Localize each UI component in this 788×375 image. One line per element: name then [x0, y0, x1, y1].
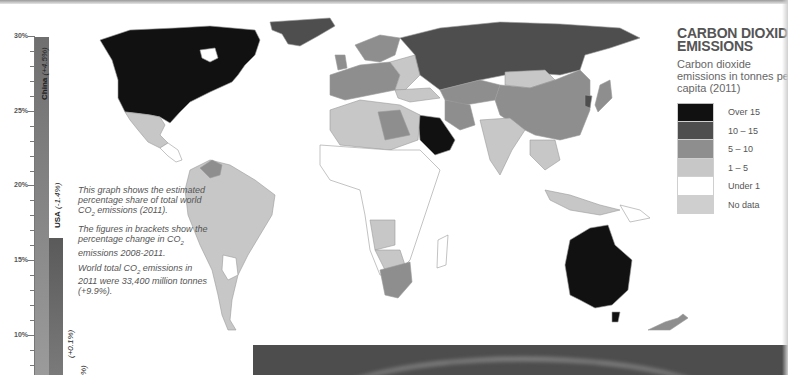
legend-item-under-1: Under 1 [677, 177, 788, 196]
legend-item-no-data: No data [677, 196, 788, 215]
legend-subtitle: Carbon dioxide emissions in tonnes pe ca… [677, 58, 788, 94]
tick [30, 350, 34, 351]
tick-25 [28, 111, 34, 112]
bar-label-usa: USA (-1.4%) [53, 183, 62, 228]
swatch-10-15 [677, 122, 714, 141]
china-label: China [40, 78, 49, 100]
legend-item-1-5: 1 – 5 [677, 159, 788, 178]
bar-label-third: (+0.1%) [66, 330, 75, 358]
scandinavia [355, 35, 400, 62]
new-zealand [648, 314, 688, 330]
swatch-over-15 [677, 103, 714, 122]
third-change: (+0.1%) [66, 330, 75, 358]
tick [30, 305, 34, 306]
china-change: (+4.5%) [40, 47, 49, 75]
swatch-1-5 [677, 159, 714, 178]
bar-usa [49, 238, 63, 375]
tick [30, 245, 34, 246]
tick [30, 215, 34, 216]
tick-10 [28, 335, 34, 336]
note-para-1: This graph shows the estimated percentag… [78, 185, 208, 219]
india [480, 118, 525, 175]
tick [30, 365, 34, 366]
map-legend: CARBON DIOXID EMISSIONS Carbon dioxide e… [677, 27, 788, 214]
tick [30, 81, 34, 82]
tick [30, 230, 34, 231]
swatch-under-1 [677, 177, 714, 196]
turkey [395, 88, 440, 102]
tick-30 [28, 36, 34, 37]
bottom-globe-band [253, 345, 788, 375]
papua [620, 205, 650, 222]
tick [30, 275, 34, 276]
north-america [100, 26, 260, 123]
tick-label-15: 15% [6, 256, 28, 263]
tick-label-10: 10% [6, 331, 28, 338]
tick [30, 51, 34, 52]
legend-item-5-10: 5 – 10 [677, 140, 788, 159]
tick-label-20: 20% [6, 181, 28, 188]
tick [30, 320, 34, 321]
north-africa [330, 100, 420, 150]
swatch-no-data [677, 196, 714, 215]
page-edge-shadow [782, 0, 788, 375]
iran [445, 100, 475, 130]
tasmania [612, 312, 620, 322]
note-para-3: World total CO2 emissions in 2011 were 3… [78, 263, 208, 297]
fourth-change: %) [79, 365, 88, 375]
central-america [160, 143, 182, 162]
chart-note: This graph shows the estimated percentag… [78, 185, 208, 301]
japan [595, 80, 612, 112]
tick [30, 290, 34, 291]
tick-15 [28, 260, 34, 261]
legend-title: CARBON DIOXID EMISSIONS [677, 27, 788, 53]
greenland [270, 18, 335, 46]
korea [585, 95, 592, 108]
tick [30, 126, 34, 127]
swatch-5-10 [677, 140, 714, 159]
tick [30, 200, 34, 201]
indonesia [545, 190, 620, 215]
note-para-2: The figures in brackets show the percent… [78, 224, 208, 258]
tick [30, 141, 34, 142]
australia [565, 225, 632, 308]
tick-20 [28, 185, 34, 186]
uk [335, 55, 347, 70]
tick [30, 156, 34, 157]
usa-change: (-1.4%) [53, 183, 62, 209]
tick-label-25: 25% [6, 107, 28, 114]
legend-item-over-15: Over 15 [677, 103, 788, 122]
southeast-asia [530, 140, 560, 170]
tick [30, 96, 34, 97]
madagascar [437, 235, 448, 268]
tick [30, 171, 34, 172]
bar-label-china: China (+4.5%) [40, 47, 49, 100]
tick [30, 66, 34, 67]
usa-label: USA [53, 211, 62, 228]
legend-item-10-15: 10 – 15 [677, 122, 788, 141]
globe-arc [303, 357, 743, 375]
tick-label-30: 30% [6, 32, 28, 39]
bar-label-fourth: %) [79, 365, 88, 375]
legend-list: Over 15 10 – 15 5 – 10 1 – 5 Under 1 No … [677, 103, 788, 214]
